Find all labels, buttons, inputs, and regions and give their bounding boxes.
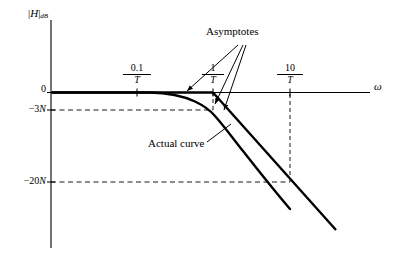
actual-curve-leader bbox=[207, 124, 231, 142]
y-axis-label: |H|dB bbox=[28, 8, 48, 20]
annotation-actual-curve: Actual curve bbox=[148, 138, 205, 149]
x-tick-label-tenth-over-T: 0.1 T bbox=[123, 63, 151, 86]
y-tick-label-zero: 0 bbox=[14, 84, 46, 94]
y-tick-label-minus-3N: −3N bbox=[2, 104, 46, 114]
fraction-numerator: 10 bbox=[277, 63, 303, 74]
fraction-numerator: 1 bbox=[202, 63, 224, 74]
fraction-denominator: T bbox=[202, 74, 224, 86]
y-tick-label-minus-20N: −20N bbox=[0, 176, 46, 186]
x-axis-label: ω bbox=[374, 81, 382, 92]
x-tick-label-one-over-T: 1 T bbox=[202, 63, 224, 86]
bode-plot-figure: |H|dB ω 0 −3N −20N 0.1 T 1 T 10 T Asympt… bbox=[0, 0, 405, 262]
annotation-asymptotes: Asymptotes bbox=[206, 26, 259, 37]
fraction-denominator: T bbox=[123, 74, 151, 86]
fraction-denominator: T bbox=[277, 74, 303, 86]
fraction-numerator: 0.1 bbox=[123, 63, 151, 74]
x-tick-label-ten-over-T: 10 T bbox=[277, 63, 303, 86]
high-frequency-asymptote bbox=[213, 93, 336, 231]
plot-canvas bbox=[0, 0, 405, 262]
